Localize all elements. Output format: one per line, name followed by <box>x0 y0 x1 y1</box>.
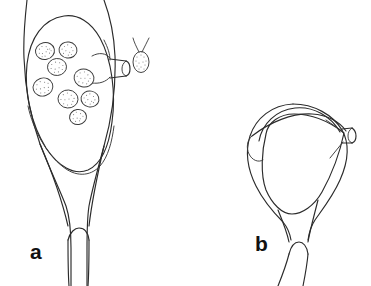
figure-background <box>0 0 371 286</box>
line-drawing-svg <box>0 0 371 286</box>
figure-canvas: a b <box>0 0 371 286</box>
